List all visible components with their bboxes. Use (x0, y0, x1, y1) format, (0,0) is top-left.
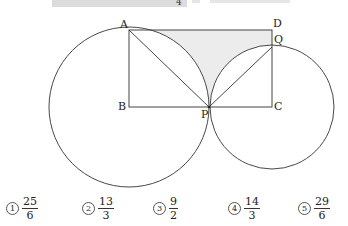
choice-fraction: 25 6 (22, 196, 38, 221)
choice-marker: 1 (6, 202, 19, 215)
label-b: B (118, 101, 126, 112)
label-q: Q (274, 34, 283, 45)
answer-choices: 1 25 6 2 13 3 3 9 2 4 14 3 5 29 6 (0, 196, 348, 224)
choice-5[interactable]: 5 29 6 (298, 196, 330, 221)
choice-2[interactable]: 2 13 3 (82, 196, 114, 221)
choice-4[interactable]: 4 14 3 (228, 196, 260, 221)
point-p-dot (208, 106, 211, 109)
choice-marker: 2 (82, 202, 95, 215)
choice-1[interactable]: 1 25 6 (6, 196, 38, 221)
choice-fraction: 29 6 (314, 196, 330, 221)
label-d: D (273, 18, 282, 29)
geometry-figure (0, 0, 348, 196)
choice-fraction: 14 3 (244, 196, 260, 221)
choice-marker: 3 (153, 202, 166, 215)
label-p: P (201, 109, 208, 120)
choice-marker: 4 (228, 202, 241, 215)
choice-3[interactable]: 3 9 2 (153, 196, 178, 221)
choice-fraction: 13 3 (98, 196, 114, 221)
label-a: A (120, 19, 128, 30)
label-c: C (274, 101, 282, 112)
shaded-region (129, 30, 272, 107)
choice-marker: 5 (298, 202, 311, 215)
choice-fraction: 9 2 (169, 196, 178, 221)
